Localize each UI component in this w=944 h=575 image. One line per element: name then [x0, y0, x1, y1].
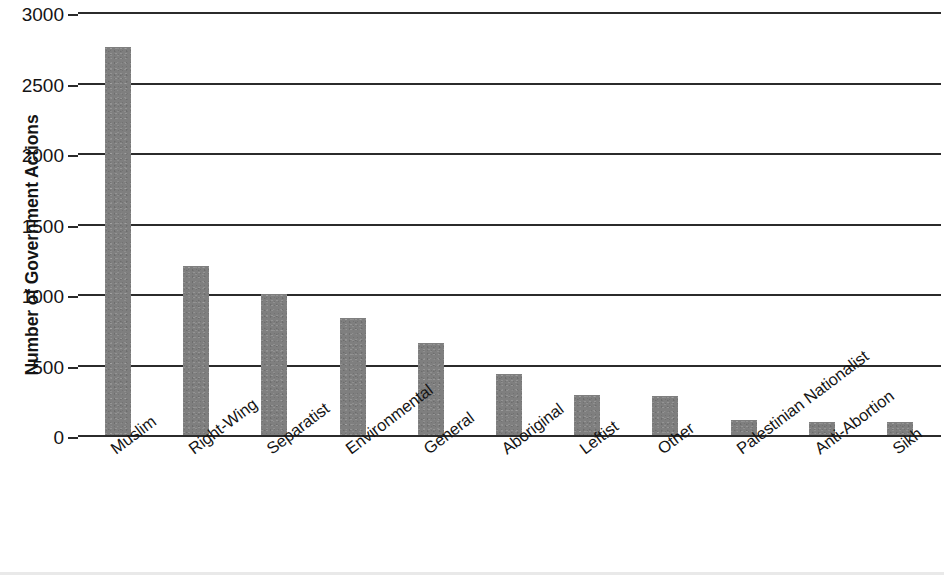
y-axis-title: Number of Government Actions — [22, 55, 44, 435]
y-axis-tick-mark — [68, 226, 78, 228]
bar-chart: Number of Government Actions 05001000150… — [0, 0, 944, 575]
bar — [261, 294, 287, 435]
y-axis-tick-mark — [68, 155, 78, 157]
bar — [340, 318, 366, 435]
y-axis-tick-mark — [68, 367, 78, 369]
y-axis-tick-label: 500 — [32, 357, 64, 376]
y-axis-tick-label: 2500 — [22, 75, 64, 94]
plot-area: 050010001500200025003000 — [78, 12, 941, 435]
y-axis-tick-mark — [68, 14, 78, 16]
y-axis-tick-mark — [68, 296, 78, 298]
gridline: 1500 — [78, 224, 941, 226]
y-axis-tick-mark — [68, 437, 78, 439]
gridline: 2000 — [78, 153, 941, 155]
bar — [183, 266, 209, 435]
y-axis-tick-label: 2000 — [22, 146, 64, 165]
bar — [496, 374, 522, 435]
y-axis-tick-label: 0 — [53, 428, 64, 447]
gridline: 2500 — [78, 83, 941, 85]
y-axis-tick-mark — [68, 85, 78, 87]
y-axis-tick-label: 3000 — [22, 5, 64, 24]
y-axis-tick-label: 1500 — [22, 216, 64, 235]
gridline: 3000 — [78, 12, 941, 14]
y-axis-tick-label: 1000 — [22, 287, 64, 306]
bar — [105, 47, 131, 435]
